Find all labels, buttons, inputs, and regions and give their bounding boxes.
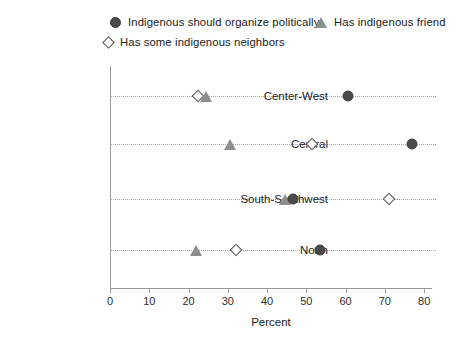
data-point <box>200 91 212 102</box>
triangle-icon <box>200 91 212 102</box>
circle-icon <box>287 194 298 205</box>
chart-legend: Indigenous should organize politically H… <box>0 0 456 58</box>
legend-label: Indigenous should organize politically <box>128 16 319 28</box>
circle-icon <box>407 139 418 150</box>
x-axis-tick-label: 80 <box>418 295 430 307</box>
legend-entry-triangle: Has indigenous friend <box>315 16 446 28</box>
diamond-icon <box>382 193 395 206</box>
data-point <box>315 245 326 256</box>
diamond-icon <box>102 36 115 49</box>
x-axis-tick <box>228 288 229 293</box>
x-axis-tick-label: 20 <box>182 295 194 307</box>
legend-entry-circle: Indigenous should organize politically <box>110 16 319 28</box>
x-axis-tick-label: 30 <box>222 295 234 307</box>
x-axis-tick <box>346 288 347 293</box>
legend-entry-diamond: Has some indigenous neighbors <box>104 36 285 48</box>
x-axis-tick-label: 0 <box>107 295 113 307</box>
circle-icon <box>315 245 326 256</box>
x-axis-tick <box>424 288 425 293</box>
x-axis-tick-label: 50 <box>300 295 312 307</box>
x-axis-tick <box>149 288 150 293</box>
x-axis-tick <box>306 288 307 293</box>
data-point <box>231 246 240 255</box>
gridline <box>110 250 436 251</box>
gridline <box>110 144 436 145</box>
x-axis-tick <box>110 288 111 293</box>
data-point <box>308 140 317 149</box>
dot-plot-chart: Indigenous should organize politically H… <box>0 0 456 340</box>
circle-icon <box>342 91 353 102</box>
x-axis-title: Percent <box>251 316 291 328</box>
triangle-icon <box>190 245 202 256</box>
x-axis-tick <box>385 288 386 293</box>
x-axis-tick-label: 40 <box>261 295 273 307</box>
plot-area: Percent Center-WestCentralSouth-Southwes… <box>110 66 440 288</box>
legend-label: Has some indigenous neighbors <box>120 36 285 48</box>
data-point <box>190 245 202 256</box>
data-point <box>407 139 418 150</box>
x-axis-tick <box>267 288 268 293</box>
x-axis-tick-label: 60 <box>339 295 351 307</box>
circle-icon <box>110 17 121 28</box>
triangle-icon <box>224 139 236 150</box>
data-point <box>287 194 298 205</box>
x-axis-line <box>110 288 432 289</box>
data-point <box>224 139 236 150</box>
x-axis-tick <box>189 288 190 293</box>
legend-label: Has indigenous friend <box>334 16 446 28</box>
diamond-icon <box>229 244 242 257</box>
y-axis-line <box>110 66 111 288</box>
diamond-icon <box>306 138 319 151</box>
triangle-icon <box>315 17 327 28</box>
y-axis-tick-label: Center-West <box>264 90 328 102</box>
data-point <box>342 91 353 102</box>
x-axis-tick-label: 70 <box>379 295 391 307</box>
x-axis-tick-label: 10 <box>143 295 155 307</box>
data-point <box>384 195 393 204</box>
